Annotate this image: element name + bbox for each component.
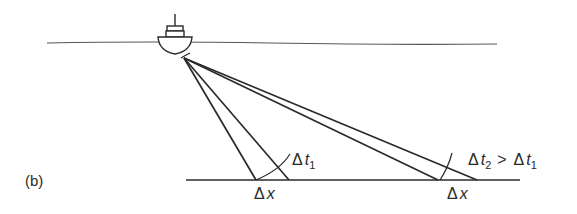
delta-x-right-label: Δx (447, 185, 469, 202)
sonar-beam-diagram: (b) Δt1 Δt2>Δt1 Δx Δx (0, 0, 577, 214)
ship-icon (158, 14, 192, 54)
transducer-arc (181, 53, 190, 58)
delta-x-left-label: Δx (254, 185, 276, 202)
sea-surface-line (47, 42, 497, 44)
beam-rays (184, 58, 477, 180)
delta-t2-comparison-label: Δt2>Δt1 (468, 151, 537, 171)
delta-t1-label: Δt1 (292, 151, 315, 171)
panel-label: (b) (25, 172, 43, 189)
